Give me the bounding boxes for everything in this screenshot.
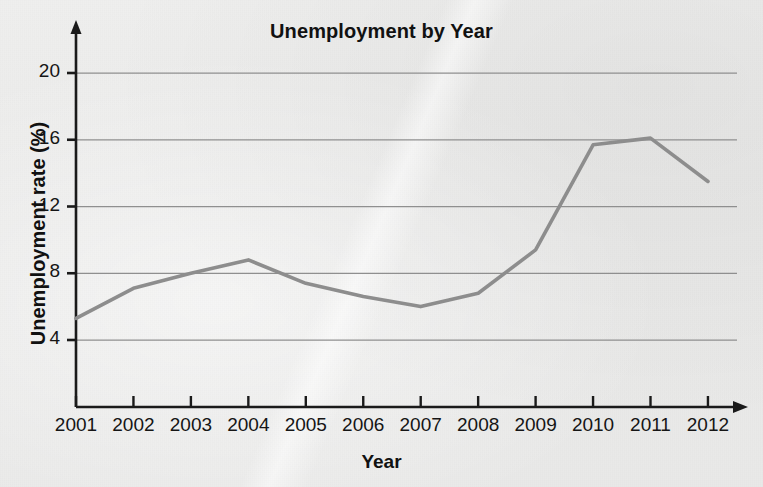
y-axis-tick-label: 20	[16, 60, 60, 82]
x-axis-tick-label: 2001	[46, 414, 106, 436]
y-axis-tick-label: 16	[16, 127, 60, 149]
gridlines	[76, 73, 737, 340]
x-axis-tick-label: 2002	[103, 414, 163, 436]
x-axis-arrowhead-icon	[733, 401, 748, 413]
unemployment-rate-series-line	[76, 138, 708, 318]
x-axis-tick-label: 2003	[161, 414, 221, 436]
x-axis-tick-label: 2006	[333, 414, 393, 436]
y-axis-tick-label: 12	[16, 194, 60, 216]
x-axis-tick-label: 2004	[218, 414, 278, 436]
y-axis-tick-label: 4	[16, 327, 60, 349]
x-axis-tick-marks	[76, 396, 708, 407]
x-axis-tick-label: 2008	[448, 414, 508, 436]
x-axis-tick-label: 2011	[621, 414, 681, 436]
chart-title: Unemployment by Year	[0, 20, 763, 43]
x-axis-tick-label: 2012	[678, 414, 738, 436]
x-axis-tick-label: 2005	[276, 414, 336, 436]
x-axis-title: Year	[0, 451, 763, 473]
x-axis-tick-label: 2010	[563, 414, 623, 436]
y-axis-tick-label: 8	[16, 260, 60, 282]
chart-title-text: Unemployment by Year	[270, 20, 493, 43]
x-axis-tick-label: 2009	[506, 414, 566, 436]
x-axis-tick-label: 2007	[391, 414, 451, 436]
